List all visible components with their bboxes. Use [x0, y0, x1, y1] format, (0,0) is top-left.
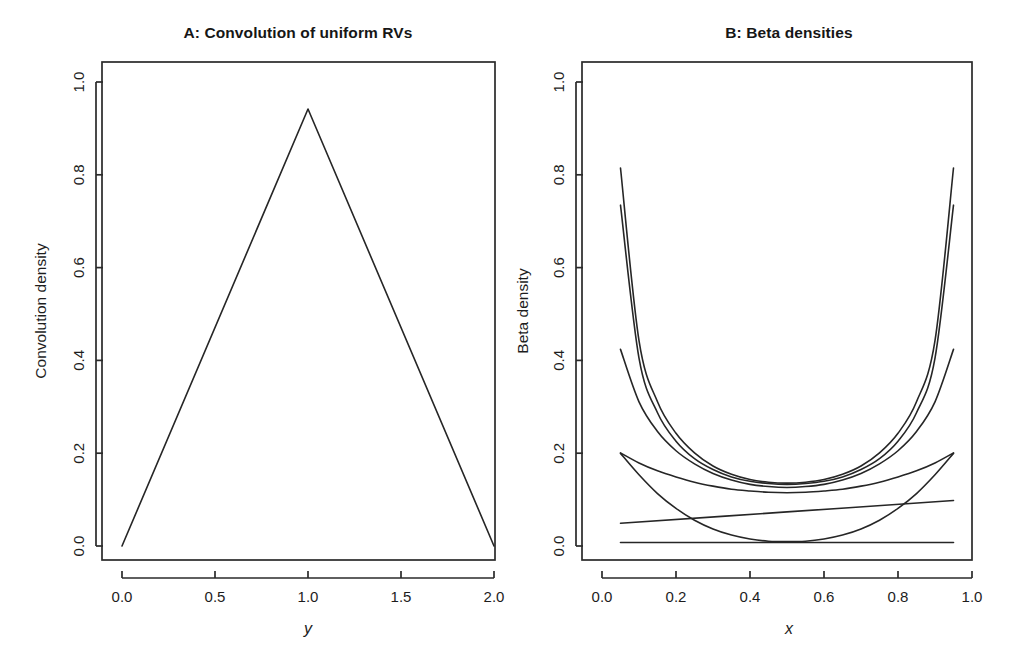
- panel-a-data-layer: [122, 109, 494, 546]
- panel-a-ytick-3: 0.6: [70, 257, 87, 278]
- panel-b-ytick-4: 0.8: [550, 164, 567, 185]
- panel-a-ytick-0: 0.0: [70, 536, 87, 557]
- panel-a-x-ticks: [122, 571, 494, 578]
- panel-b-x-axis-label: x: [784, 620, 794, 637]
- panel-a-ytick-5: 1.0: [70, 72, 87, 93]
- panel-a-xtick-4: 2.0: [484, 588, 505, 605]
- panel-b-title: B: Beta densities: [725, 24, 852, 41]
- panel-b-xtick-3: 0.6: [814, 588, 835, 605]
- panel-b-y-axis-label: Beta density: [514, 268, 531, 354]
- panel-b-ytick-0: 0.0: [550, 536, 567, 557]
- panel-b-plot-box: [582, 62, 972, 560]
- panel-a-x-axis-label: y: [303, 620, 313, 637]
- panel-a-svg: A: Convolution of uniform RVs 0.0 0.2 0.…: [0, 0, 506, 658]
- panel-b-ytick-2: 0.4: [550, 350, 567, 371]
- panel-a-convolution: A: Convolution of uniform RVs 0.0 0.2 0.…: [0, 0, 506, 658]
- panel-a-ytick-4: 0.8: [70, 164, 87, 185]
- panel-b-ytick-3: 0.6: [550, 257, 567, 278]
- figure-canvas: A: Convolution of uniform RVs 0.0 0.2 0.…: [0, 0, 1013, 658]
- panel-a-ytick-1: 0.2: [70, 443, 87, 464]
- panel-a-xtick-0: 0.0: [112, 588, 133, 605]
- panel-a-xtick-2: 1.0: [298, 588, 319, 605]
- panel-b-x-ticks: [602, 571, 972, 578]
- curve-triangular density (sum of two U(0,1)): [122, 109, 494, 546]
- panel-a-y-axis-label: Convolution density: [32, 243, 49, 379]
- panel-b-xtick-0: 0.0: [592, 588, 613, 605]
- panel-b-svg: B: Beta densities 0.0 0.2 0.4 0.6 0.8 1.…: [506, 0, 1013, 658]
- curve-beta-curve-1-steep-u: [621, 168, 954, 483]
- panel-b-ytick-1: 0.2: [550, 443, 567, 464]
- curve-beta-curve-5-deep-u: [621, 453, 954, 541]
- panel-a-xtick-3: 1.5: [391, 588, 412, 605]
- panel-a-title: A: Convolution of uniform RVs: [183, 24, 412, 41]
- curve-beta-curve-2-steep-u: [621, 205, 954, 484]
- panel-b-xtick-2: 0.4: [740, 588, 761, 605]
- panel-a-plot-box: [102, 62, 495, 560]
- panel-a-ytick-2: 0.4: [70, 350, 87, 371]
- panel-a-xtick-1: 0.5: [205, 588, 226, 605]
- curve-beta-curve-3-moderate-u: [621, 349, 954, 487]
- panel-b-ytick-5: 1.0: [550, 72, 567, 93]
- panel-b-data-layer: [621, 168, 954, 542]
- panel-b-xtick-1: 0.2: [666, 588, 687, 605]
- panel-b-xtick-5: 1.0: [962, 588, 983, 605]
- panel-b-beta: B: Beta densities 0.0 0.2 0.4 0.6 0.8 1.…: [506, 0, 1013, 658]
- panel-b-xtick-4: 0.8: [888, 588, 909, 605]
